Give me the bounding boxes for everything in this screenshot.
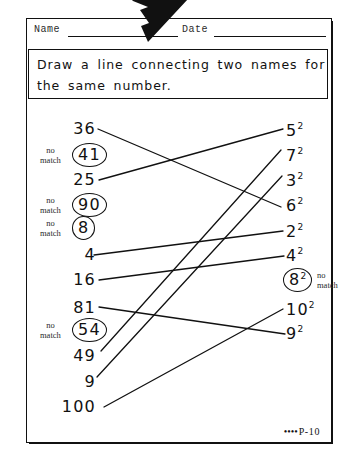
right-number-8-squared[interactable]: 82 [283,268,312,292]
exponent: 2 [297,146,303,156]
connection-line[interactable] [99,256,284,280]
worksheet-page: Name Date Draw a line connecting two nam… [0,0,360,465]
left-number-54[interactable]: 54 [72,318,107,342]
right-number-10-squared[interactable]: 102 [286,300,315,319]
left-number-25[interactable]: 25 [0,170,96,189]
right-number-9-squared[interactable]: 92 [286,324,303,343]
right-number-7-squared[interactable]: 72 [286,146,303,165]
left-number-16[interactable]: 16 [0,270,96,289]
base-digit: 2 [286,222,297,241]
left-number-4[interactable]: 4 [0,245,96,264]
exponent: 2 [297,246,303,256]
right-number-5-squared[interactable]: 52 [286,121,303,140]
right-number-6-squared[interactable]: 62 [286,196,303,215]
exponent: 2 [300,271,306,281]
base-digit: 10 [286,300,309,319]
left-number-81[interactable]: 81 [0,298,96,317]
base-digit: 5 [286,121,297,140]
connection-line[interactable] [94,231,283,255]
exponent: 2 [297,324,303,334]
no-match-label-left: nomatch [40,146,61,165]
exponent: 2 [297,121,303,131]
exponent: 2 [297,196,303,206]
no-match-line-2: match [40,155,61,165]
connection-line[interactable] [104,309,283,407]
no-match-line-2: match [40,205,61,215]
exponent: 2 [297,171,303,181]
base-digit: 4 [286,246,297,265]
no-match-label-right: nomatch [317,271,338,290]
base-digit: 6 [286,196,297,215]
no-match-line-2: match [40,330,61,340]
connection-line[interactable] [99,307,285,334]
left-number-41[interactable]: 41 [72,143,107,167]
footer-dots: •••• [284,426,298,437]
left-number-90[interactable]: 90 [72,193,107,217]
base-digit: 8 [289,270,300,289]
base-digit: 9 [286,324,297,343]
exponent: 2 [309,300,315,310]
base-digit: 3 [286,171,297,190]
page-footer: ••••P-10 [284,426,320,437]
no-match-label-left: nomatch [40,219,61,238]
exponent: 2 [297,222,303,232]
right-number-4-squared[interactable]: 42 [286,246,303,265]
matching-exercise: 3641nomatch2590nomatch8nomatch4168154nom… [0,0,360,465]
right-number-2-squared[interactable]: 22 [286,222,303,241]
no-match-line-2: match [317,280,338,290]
right-number-3-squared[interactable]: 32 [286,171,303,190]
left-number-49[interactable]: 49 [0,346,96,365]
no-match-line-2: match [40,228,61,238]
left-number-100[interactable]: 100 [0,397,96,416]
connection-line[interactable] [98,129,281,207]
no-match-label-left: nomatch [40,321,61,340]
left-number-9[interactable]: 9 [0,372,96,391]
base-digit: 7 [286,146,297,165]
page-code: P-10 [299,426,320,437]
connection-line[interactable] [99,129,283,180]
no-match-label-left: nomatch [40,196,61,215]
left-number-36[interactable]: 36 [0,119,96,138]
